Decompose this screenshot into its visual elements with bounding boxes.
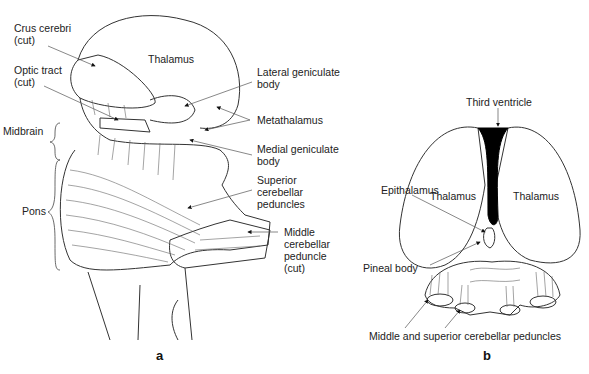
label-superior-cerebellar: Superior cerebellar peduncles [257, 174, 305, 210]
label-metathalamus: Metathalamus [257, 114, 323, 126]
panel-b-letter: b [483, 348, 491, 363]
label-optic-tract: Optic tract (cut) [14, 64, 62, 88]
panel-b-drawing [399, 108, 580, 328]
label-pons: Pons [22, 205, 46, 217]
label-midbrain: Midbrain [3, 125, 43, 137]
label-lateral-geniculate: Lateral geniculate body [257, 66, 340, 90]
label-third-ventricle: Third ventricle [466, 96, 532, 108]
label-crus-cerebri: Crus cerebri (cut) [14, 22, 71, 46]
label-thalamus-right: Thalamus [513, 190, 559, 202]
label-thalamus-a: Thalamus [148, 53, 194, 65]
label-middle-cerebellar: Middle cerebellar peduncle (cut) [284, 226, 330, 274]
panel-a-letter: a [156, 348, 163, 363]
label-pineal-body: Pineal body [363, 262, 418, 274]
label-thalamus-left: Thalamus [430, 190, 476, 202]
label-cerebellar-peduncles: Middle and superior cerebellar peduncles [369, 330, 561, 342]
label-medial-geniculate: Medial geniculate body [257, 143, 339, 167]
